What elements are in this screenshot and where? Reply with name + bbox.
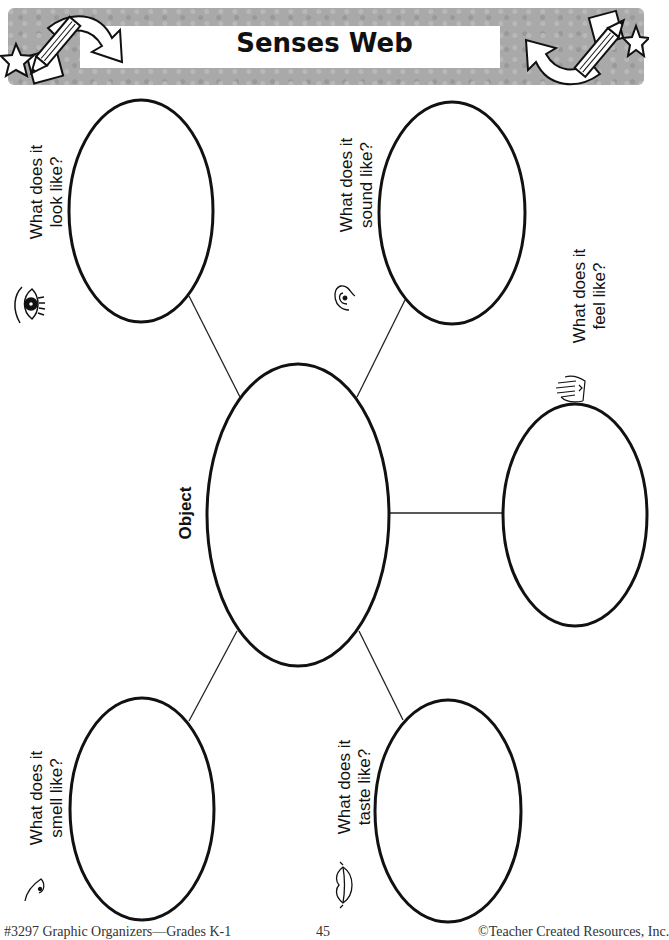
touch-question: What does it feel like?	[570, 241, 610, 351]
touch-question-line1: What does it	[570, 241, 590, 351]
lips-icon	[337, 862, 353, 908]
taste-question-line1: What does it	[335, 732, 355, 842]
hearing-question-line2: sound like?	[357, 130, 377, 240]
hearing-question: What does it sound like?	[337, 130, 377, 240]
header-decoration-left	[1, 16, 122, 83]
ear-icon	[335, 286, 355, 310]
smell-question: What does it smell like?	[27, 743, 67, 853]
footer-right: ©Teacher Created Resources, Inc.	[478, 924, 669, 940]
smell-question-line1: What does it	[27, 743, 47, 853]
footer-page-number: 45	[316, 924, 330, 940]
hearing-bubble[interactable]	[379, 102, 525, 324]
header-decoration-right	[526, 11, 649, 84]
nose-icon	[25, 879, 44, 901]
taste-bubble[interactable]	[375, 700, 521, 922]
taste-question-line2: taste like?	[355, 732, 375, 842]
footer-left: #3297 Graphic Organizers—Grades K-1	[4, 924, 231, 940]
smell-question-line2: smell like?	[47, 743, 67, 853]
touch-bubble[interactable]	[503, 404, 647, 626]
hand-icon	[556, 376, 585, 402]
hearing-question-line1: What does it	[337, 130, 357, 240]
connector-hearing	[357, 300, 405, 397]
touch-question-line2: feel like?	[590, 241, 610, 351]
connector-sight	[189, 296, 240, 397]
connector-smell	[189, 631, 237, 721]
sight-question: What does it look like?	[27, 137, 67, 247]
star-icon	[1, 44, 33, 76]
center-object-label: Object	[176, 487, 196, 540]
smell-bubble[interactable]	[70, 698, 214, 920]
star-icon	[623, 26, 649, 56]
sight-bubble[interactable]	[69, 100, 213, 322]
center-object-bubble[interactable]	[207, 364, 389, 666]
sight-question-line1: What does it	[27, 137, 47, 247]
taste-question: What does it taste like?	[335, 732, 375, 842]
connector-taste	[359, 631, 403, 720]
sight-question-line2: look like?	[47, 137, 67, 247]
eye-icon	[15, 287, 45, 323]
